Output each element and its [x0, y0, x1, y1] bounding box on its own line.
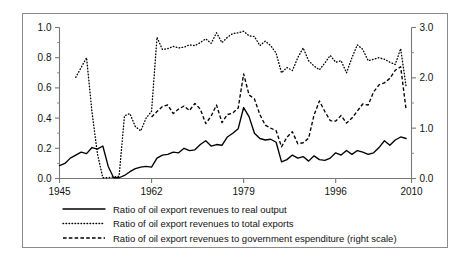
- legend-label-1: Ratio of oil export revenues to total ex…: [113, 218, 294, 229]
- x-tick-label: 1996: [325, 186, 348, 197]
- chart-canvas: 0.00.20.40.60.81.00.01.02.03.01945196219…: [0, 0, 463, 267]
- series-line-2: [152, 67, 407, 147]
- series-group: [60, 31, 407, 177]
- y-tick-label-left: 0.4: [38, 113, 52, 124]
- x-tick-label: 1979: [232, 186, 255, 197]
- series-line-1: [76, 31, 406, 177]
- legend-label-2: Ratio of oil export revenues to governme…: [113, 233, 397, 244]
- x-tick-label: 1962: [140, 186, 163, 197]
- series-line-0: [60, 108, 407, 178]
- legend-label-0: Ratio of oil export revenues to real out…: [113, 204, 287, 215]
- y-tick-label-left: 0.8: [38, 52, 52, 63]
- y-tick-label-left: 0.6: [38, 82, 52, 93]
- x-tick-label: 2010: [400, 186, 423, 197]
- y-tick-label-left: 0.0: [38, 173, 52, 184]
- y-tick-label-right: 3.0: [420, 22, 434, 33]
- axes-group: 0.00.20.40.60.81.00.01.02.03.01945196219…: [38, 22, 434, 197]
- x-tick-label: 1945: [48, 186, 71, 197]
- y-tick-label-left: 1.0: [38, 22, 52, 33]
- y-tick-label-right: 1.0: [420, 123, 434, 134]
- figure-container: 0.00.20.40.60.81.00.01.02.03.01945196219…: [0, 0, 463, 267]
- y-tick-label-right: 2.0: [420, 72, 434, 83]
- y-tick-label-right: 0.0: [420, 173, 434, 184]
- y-tick-label-left: 0.2: [38, 143, 52, 154]
- legend-group: Ratio of oil export revenues to real out…: [63, 204, 397, 244]
